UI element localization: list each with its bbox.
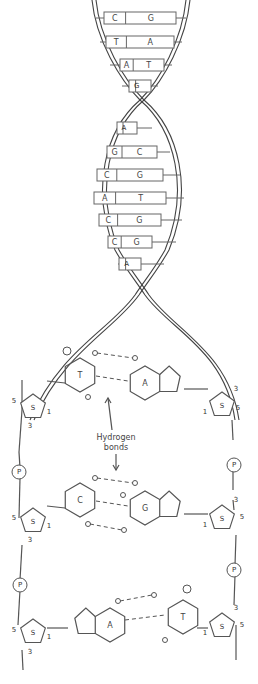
base-label: G	[136, 216, 142, 225]
sugar: S531	[203, 604, 244, 637]
hydrogen-bonds-label: Hydrogen bonds	[97, 398, 136, 470]
phosphate-label: P	[17, 468, 21, 476]
helix-pair: AT	[94, 192, 184, 204]
base-label: A	[107, 621, 113, 630]
carbon-number: 1	[203, 521, 207, 529]
dna-diagram: CGTAATGAGCCGATCGCGA S531S531S531S531S531…	[0, 0, 258, 684]
sugar-label: S	[31, 518, 36, 526]
base-label: A	[147, 38, 153, 47]
helix-pair: A	[117, 122, 152, 134]
carbon-number: 1	[47, 522, 51, 530]
sugar: S531	[203, 385, 240, 416]
hydrogen-label-line2: bonds	[104, 443, 128, 452]
base-label: C	[106, 216, 112, 225]
carbon-number: 5	[240, 621, 244, 629]
carbon-number: 3	[234, 604, 238, 612]
base-label: C	[77, 496, 83, 505]
base-label: T	[137, 194, 143, 203]
phosphate: P	[227, 563, 241, 577]
carbon-number: 3	[28, 648, 32, 656]
carbon-number: 3	[28, 422, 32, 430]
base-pair-details: TACGAT	[47, 347, 208, 643]
base-label: A	[142, 379, 148, 388]
helix-pair: TA	[100, 36, 182, 48]
base-label: C	[137, 148, 143, 157]
base-label: C	[112, 238, 118, 247]
phosphate: P	[227, 458, 241, 472]
carbon-number: 1	[203, 408, 207, 416]
base-label: T	[180, 613, 186, 622]
base-label: T	[77, 371, 83, 380]
helix-pair: CG	[108, 236, 176, 248]
helix-pair: CG	[99, 214, 182, 226]
phosphate: P	[13, 578, 27, 592]
sugar-rings: S531S531S531S531S531S531	[12, 385, 244, 656]
hydrogen-label-line1: Hydrogen	[97, 433, 136, 442]
sugar-label: S	[220, 515, 225, 523]
helix-pair: CG	[97, 169, 180, 181]
carbon-number: 5	[236, 404, 240, 412]
carbon-number: 3	[234, 385, 238, 393]
carbon-number: 1	[47, 408, 51, 416]
phosphate-label: P	[232, 566, 236, 574]
base-label: G	[142, 504, 148, 513]
base-label: C	[112, 14, 118, 23]
base-label: G	[137, 171, 143, 180]
carbon-number: 3	[28, 536, 32, 544]
carbon-number: 5	[12, 397, 16, 405]
sugar: S531	[203, 496, 244, 529]
base-label: G	[148, 14, 154, 23]
base-pair: CG	[47, 476, 208, 533]
base-label: T	[113, 38, 119, 47]
helix-pair: CG	[96, 12, 186, 24]
base-label: A	[102, 194, 108, 203]
carbon-number: 3	[234, 496, 238, 504]
base-label: G	[111, 148, 117, 157]
base-pair: AT	[47, 585, 208, 643]
base-label: C	[104, 171, 110, 180]
sugar-label: S	[220, 402, 225, 410]
arrow-up-icon	[108, 398, 112, 430]
phosphate-label: P	[18, 581, 22, 589]
phosphate: P	[12, 465, 26, 479]
carbon-number: 1	[47, 633, 51, 641]
sugar-label: S	[31, 404, 36, 412]
helix-pair: GC	[107, 146, 170, 158]
base-label: A	[124, 260, 129, 268]
phosphate-label: P	[232, 461, 236, 469]
carbon-number: 5	[240, 513, 244, 521]
carbon-number: 1	[203, 629, 207, 637]
carbon-number: 5	[12, 626, 16, 634]
base-label: A	[124, 61, 130, 70]
sugar: S531	[12, 508, 51, 544]
base-pair: TA	[47, 347, 208, 400]
sugar-label: S	[31, 629, 36, 637]
base-label: A	[122, 124, 127, 132]
base-label: T	[145, 61, 151, 70]
base-label: G	[134, 82, 139, 90]
sugar-label: S	[220, 623, 225, 631]
base-label: G	[133, 238, 139, 247]
carbon-number: 5	[12, 514, 16, 522]
helix-pair: AT	[110, 59, 172, 71]
sugar: S531	[12, 394, 51, 430]
